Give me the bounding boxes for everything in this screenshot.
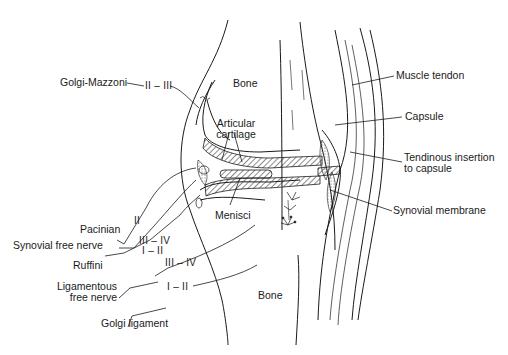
bone-lower-label: Bone [258,290,283,301]
articular-cartilage-lower [205,176,320,196]
tibia-shaft-right [296,255,299,345]
menisci-label: Menisci [215,210,251,221]
muscle-tendon-label: Muscle tendon [396,70,464,81]
golgi-ligament-label: Golgi ligament [101,318,168,329]
center-bone-left [280,40,282,230]
meniscus-left [220,170,272,178]
ruffini-type: I – II [142,245,163,256]
bone-upper-label: Bone [233,78,258,89]
ligamentous-free-nerve-label: Ligamentous free nerve [55,281,117,303]
leader-lines [105,76,402,327]
pacinian-label: Pacinian [80,224,120,235]
golgi-mazzoni-label: Golgi-Mazzoni [60,77,127,88]
tendinous-insertion-label: Tendinous insertion to capsule [404,152,494,174]
ruffini-label: Ruffini [73,260,103,271]
articular-cartilage-label: Articular cartilage [208,118,264,140]
articular-cartilage-upper [203,138,322,168]
golgi-mazzoni-type: II – III [145,80,172,91]
knee-joint-diagram: Bone Articular cartilage Menisci Bone Mu… [0,0,508,355]
capsule-label: Capsule [405,111,444,122]
pacinian-type: II [134,215,140,226]
tendon-mid [352,28,375,320]
synovial-free-nerve-label: Synovial free nerve [13,240,103,251]
synovial-membrane-label: Synovial membrane [393,205,486,216]
ligamentous-free-nerve-type: III – IV [165,257,196,268]
golgi-ligament-type: I – II [167,281,188,292]
